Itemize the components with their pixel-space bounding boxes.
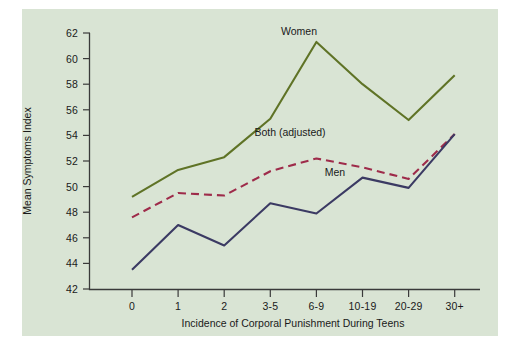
series-line-men xyxy=(132,134,455,270)
chart-figure: 4244464850525456586062 0123-56-910-1920-… xyxy=(0,0,515,357)
x-tick-label: 20-29 xyxy=(395,300,423,312)
series-label-women: Women xyxy=(281,25,317,37)
x-axis-ticks xyxy=(132,290,455,297)
x-tick-label: 10-19 xyxy=(349,300,377,312)
x-tick-label: 1 xyxy=(175,300,181,312)
y-tick-label: 52 xyxy=(52,155,78,167)
y-tick-label: 60 xyxy=(52,53,78,65)
y-tick-label: 46 xyxy=(52,232,78,244)
x-axis-title: Incidence of Corporal Punishment During … xyxy=(182,317,405,329)
x-tick-label: 6-9 xyxy=(309,300,325,312)
y-tick-label: 42 xyxy=(52,283,78,295)
y-tick-label: 48 xyxy=(52,206,78,218)
axes xyxy=(83,33,480,297)
series-label-both-adjusted: Both (adjusted) xyxy=(254,126,325,138)
y-axis-title: Mean Symptoms Index xyxy=(21,107,33,214)
series-label-men: Men xyxy=(325,166,345,178)
x-tick-label: 3-5 xyxy=(262,300,278,312)
y-tick-label: 50 xyxy=(52,181,78,193)
x-tick-label: 30+ xyxy=(445,300,463,312)
x-tick-label: 2 xyxy=(221,300,227,312)
y-tick-label: 62 xyxy=(52,27,78,39)
y-tick-label: 56 xyxy=(52,104,78,116)
data-series xyxy=(132,42,455,270)
y-tick-label: 58 xyxy=(52,78,78,90)
series-line-both-adjusted xyxy=(132,134,455,217)
x-tick-label: 0 xyxy=(129,300,135,312)
series-line-women xyxy=(132,42,455,197)
y-tick-label: 44 xyxy=(52,257,78,269)
y-tick-label: 54 xyxy=(52,129,78,141)
y-axis-line xyxy=(90,33,481,290)
